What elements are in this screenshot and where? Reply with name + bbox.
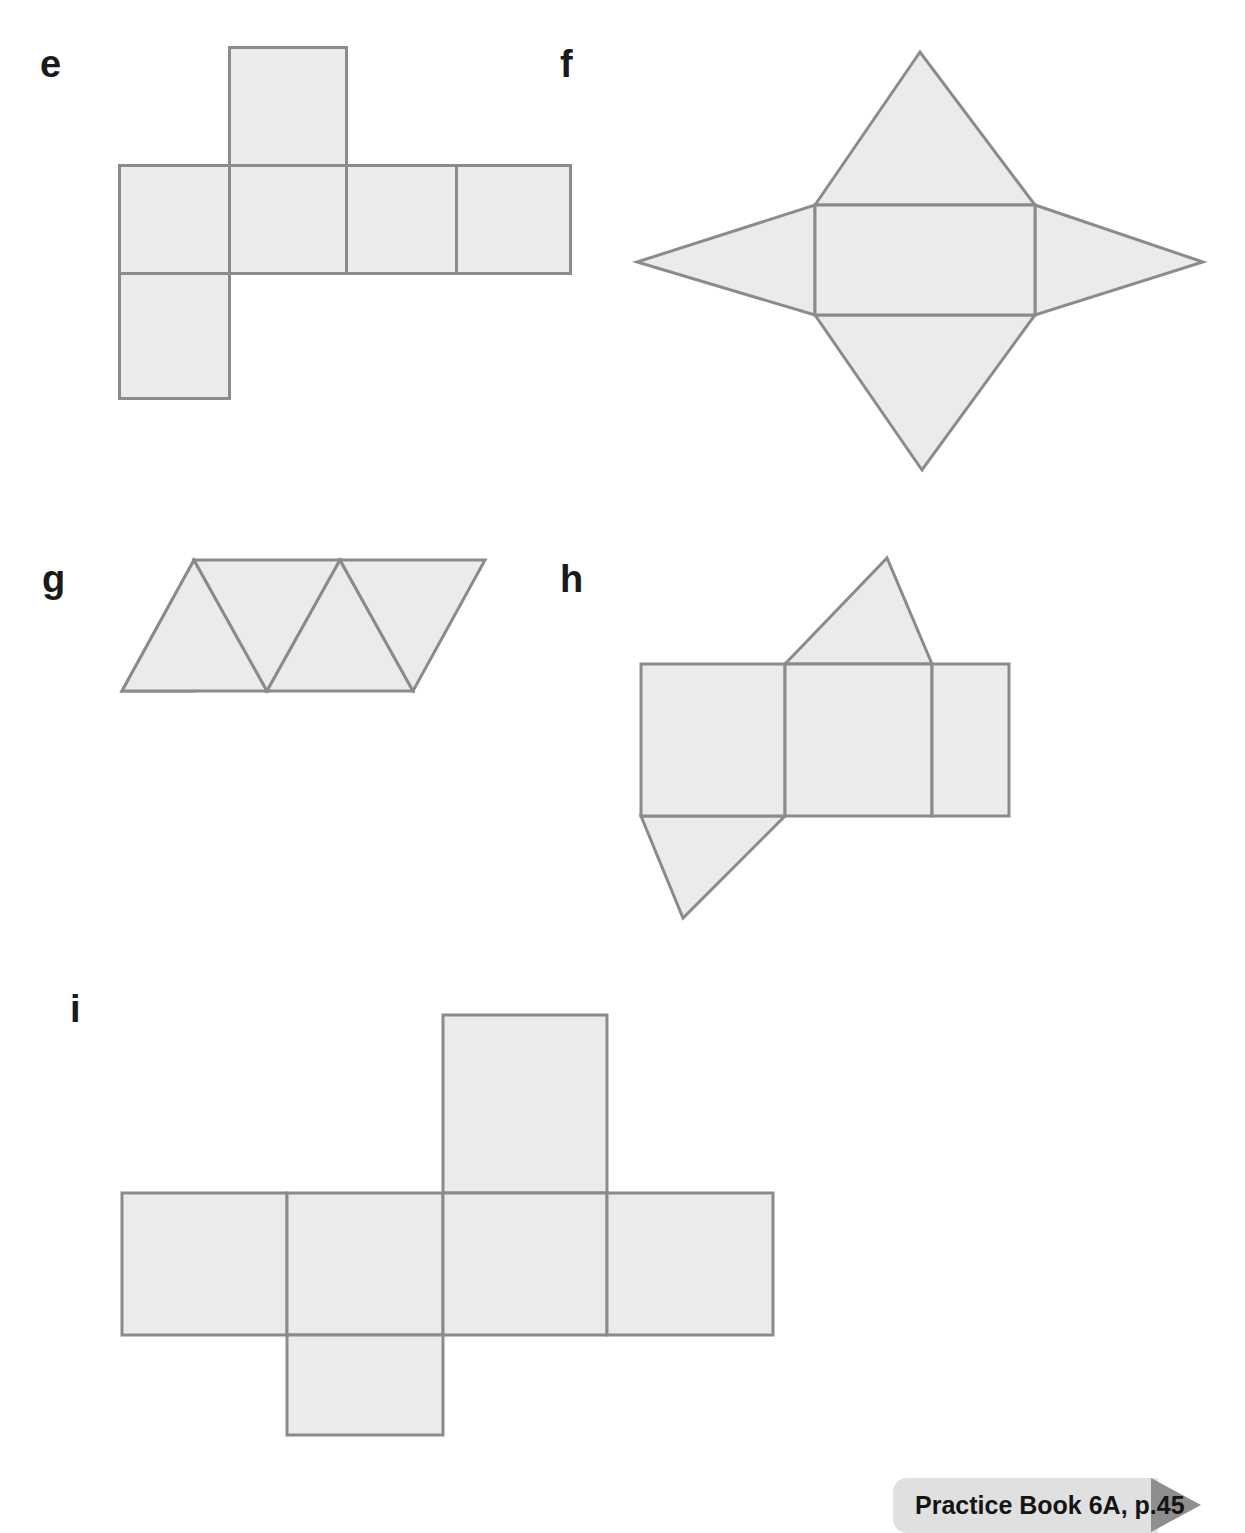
net-label-e: e — [40, 45, 61, 83]
net-e-face-row-3 — [347, 166, 457, 274]
net-f-face-bottom-triangle — [815, 315, 1035, 470]
net-figure-e — [110, 38, 580, 413]
net-h-face-rectangle-middle — [785, 664, 932, 816]
net-f-face-top-triangle — [815, 52, 1035, 205]
net-e-face-row-2 — [230, 166, 347, 274]
badge-label: Practice Book 6A, p.45 — [915, 1478, 1185, 1533]
net-e-face-row-4 — [457, 166, 571, 274]
net-i-face-top — [443, 1015, 607, 1193]
net-label-h: h — [560, 560, 583, 598]
net-e-face-bottom — [120, 274, 230, 399]
net-f-faces — [637, 52, 1203, 470]
net-f-face-center-rectangle — [815, 205, 1035, 315]
net-i-face-row-1 — [122, 1193, 287, 1335]
worksheet-page: e f g h — [0, 0, 1245, 1533]
net-figure-h — [625, 548, 1025, 933]
net-label-f: f — [560, 45, 573, 83]
net-h-face-rectangle-right — [932, 664, 1009, 816]
net-e-face-row-1 — [120, 166, 230, 274]
net-h-face-top-triangle — [785, 558, 932, 664]
net-figure-g — [112, 548, 497, 708]
practice-book-badge: Practice Book 6A, p.45 — [893, 1478, 1245, 1533]
net-h-face-rectangle-left — [641, 664, 785, 816]
net-i-face-row-2 — [287, 1193, 443, 1335]
net-g-faces — [122, 560, 485, 691]
net-i-face-row-4 — [607, 1193, 773, 1335]
net-figure-i — [110, 1005, 800, 1445]
net-figure-f — [625, 40, 1215, 485]
net-i-face-bottom — [287, 1335, 443, 1435]
net-i-face-row-3 — [443, 1193, 607, 1335]
net-f-face-right-triangle — [1035, 205, 1203, 315]
net-h-faces — [641, 558, 1009, 918]
net-e-face-top — [230, 48, 347, 166]
net-e-faces — [120, 48, 571, 399]
net-f-face-left-triangle — [637, 205, 815, 315]
net-label-g: g — [42, 560, 65, 598]
net-h-face-bottom-triangle — [641, 816, 785, 918]
net-label-i: i — [70, 990, 81, 1028]
net-i-faces — [122, 1015, 773, 1435]
